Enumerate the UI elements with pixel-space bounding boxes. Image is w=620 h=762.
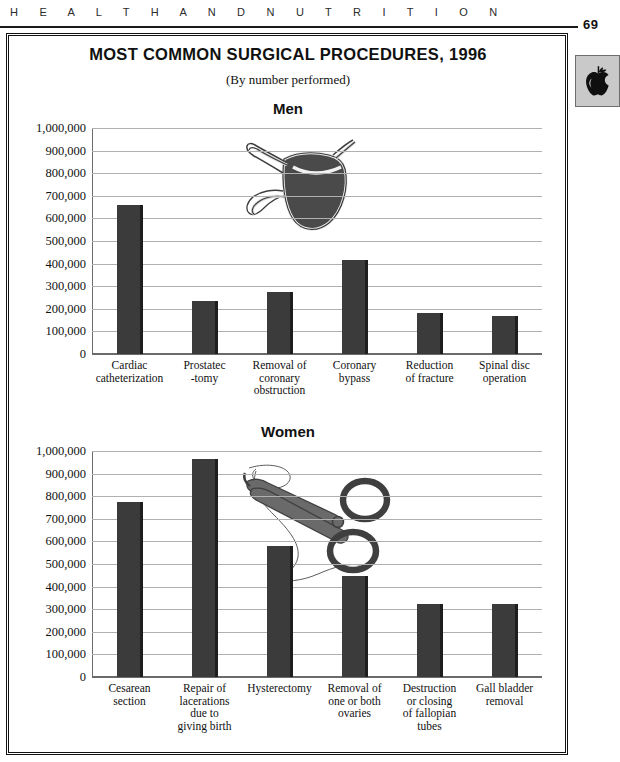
men-bar [417, 313, 443, 354]
women-category-label: Cesarean section [94, 682, 165, 707]
women-bar [342, 576, 368, 677]
y-axis-tick-label: 300,000 [45, 602, 92, 617]
men-bar [492, 316, 518, 354]
gridline [92, 677, 542, 678]
y-axis-tick-label: 900,000 [45, 143, 92, 158]
header-rule [0, 26, 578, 28]
women-plot: 0100,000200,000300,000400,000500,000600,… [92, 451, 542, 677]
women-category-label: Gall bladder removal [469, 682, 540, 707]
panel-women-title: Women [7, 423, 569, 440]
panel-men-title: Men [7, 100, 569, 117]
figure-container: MOST COMMON SURGICAL PROCEDURES, 1996 (B… [6, 33, 568, 755]
y-axis-tick-label: 100,000 [45, 324, 92, 339]
gridline [92, 451, 542, 452]
women-category-label: Removal of one or both ovaries [319, 682, 390, 720]
men-bar [192, 301, 218, 354]
y-axis-tick-label: 500,000 [45, 557, 92, 572]
men-bar [267, 292, 293, 354]
men-bar [342, 260, 368, 354]
gridline [92, 218, 542, 219]
gridline [92, 286, 542, 287]
panel-men: Men 0100,00 [7, 100, 569, 400]
gridline [92, 587, 542, 588]
y-axis-tick-label: 800,000 [45, 489, 92, 504]
y-axis-tick-label: 900,000 [45, 466, 92, 481]
y-axis-tick-label: 600,000 [45, 534, 92, 549]
y-axis-tick-label: 100,000 [45, 647, 92, 662]
gridline [92, 331, 542, 332]
women-category-label: Hysterectomy [244, 682, 315, 695]
women-bar [267, 546, 293, 677]
gridline [92, 654, 542, 655]
y-axis-tick-label: 500,000 [45, 234, 92, 249]
y-axis-tick-label: 800,000 [45, 166, 92, 181]
men-category-label: Coronary bypass [319, 359, 390, 384]
running-head-text: H E A L T H A N D N U T R I T I O N [10, 6, 506, 18]
women-bar [192, 459, 218, 677]
y-axis-tick-label: 1,000,000 [36, 444, 92, 459]
women-bar [417, 604, 443, 677]
thumb-tab[interactable] [575, 55, 620, 107]
gridline [92, 309, 542, 310]
women-category-label: Destruction or closing of fallopian tube… [394, 682, 465, 732]
men-category-label: Removal of coronary obstruction [244, 359, 315, 397]
gridline [92, 632, 542, 633]
page-number: 69 [583, 17, 598, 32]
gridline [92, 151, 542, 152]
women-bar [492, 604, 518, 677]
men-category-label: Prostatec -tomy [169, 359, 240, 384]
gridline [92, 564, 542, 565]
men-plot: 0100,000200,000300,000400,000500,000600,… [92, 128, 542, 354]
men-bar [117, 205, 143, 354]
gridline [92, 264, 542, 265]
gridline [92, 496, 542, 497]
gridline [92, 474, 542, 475]
gridline [92, 519, 542, 520]
y-axis-tick-label: 0 [80, 347, 92, 362]
y-axis-tick-label: 300,000 [45, 279, 92, 294]
gridline [92, 128, 542, 129]
y-axis-tick-label: 0 [80, 670, 92, 685]
gridline [92, 541, 542, 542]
figure-subtitle: (By number performed) [7, 72, 569, 88]
apple-icon [583, 64, 613, 98]
y-axis-tick-label: 700,000 [45, 188, 92, 203]
men-category-label: Reduction of fracture [394, 359, 465, 384]
y-axis-tick-label: 700,000 [45, 511, 92, 526]
women-category-label: Repair of lacerations due to giving birt… [169, 682, 240, 732]
men-category-label: Cardiac catheterization [94, 359, 165, 384]
gridline [92, 241, 542, 242]
gridline [92, 196, 542, 197]
figure-title: MOST COMMON SURGICAL PROCEDURES, 1996 [7, 45, 569, 64]
men-category-label: Spinal disc operation [469, 359, 540, 384]
gridline [92, 173, 542, 174]
panel-women: Women 0100,000200,000300,000400,000500,0… [7, 423, 569, 743]
y-axis-tick-label: 1,000,000 [36, 121, 92, 136]
gridline [92, 609, 542, 610]
y-axis-tick-label: 200,000 [45, 301, 92, 316]
gridline [92, 354, 542, 355]
women-bar [117, 502, 143, 677]
y-axis-tick-label: 600,000 [45, 211, 92, 226]
y-axis-tick-label: 200,000 [45, 624, 92, 639]
y-axis-tick-label: 400,000 [45, 256, 92, 271]
running-head: H E A L T H A N D N U T R I T I O N [0, 0, 568, 24]
y-axis-tick-label: 400,000 [45, 579, 92, 594]
